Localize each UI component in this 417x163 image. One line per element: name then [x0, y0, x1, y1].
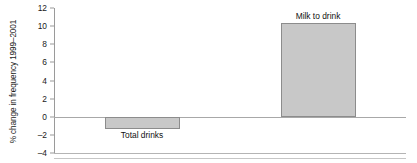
y-axis-tick-label: 6	[42, 57, 47, 67]
y-axis-tick-mark	[50, 153, 54, 154]
y-axis-tick-mark	[50, 26, 54, 27]
y-axis-tick-mark	[50, 134, 54, 135]
chart-bottom-frame	[54, 158, 406, 159]
axis-bottom-rule	[54, 153, 406, 154]
y-axis-tick-mark	[50, 98, 54, 99]
bar	[105, 117, 180, 130]
y-axis-tick-label: –4	[38, 148, 47, 158]
bar-chart: % change in frequency 1999–2001 12108642…	[0, 0, 417, 163]
y-axis-tick-mark	[50, 116, 54, 117]
y-axis-tick-mark	[50, 44, 54, 45]
y-axis-tick-mark	[50, 62, 54, 63]
y-axis-tick-label: –2	[38, 130, 47, 140]
y-axis-tick-mark	[50, 80, 54, 81]
y-axis-tick-mark	[50, 8, 54, 9]
y-axis-title: % change in frequency 1999–2001	[0, 0, 26, 163]
plot-area: Total drinksMilk to drink	[54, 8, 406, 153]
y-axis-tick-label: 2	[42, 94, 47, 104]
y-axis-tick-label: 12	[38, 3, 47, 13]
bar-category-label: Milk to drink	[258, 11, 378, 21]
y-axis-line	[54, 8, 55, 153]
y-axis-tick-label: 10	[38, 21, 47, 31]
y-axis-tick-label: 0	[42, 112, 47, 122]
bar	[281, 23, 356, 116]
y-axis-tick-labels: 121086420–2–4	[26, 0, 50, 163]
bar-category-label: Total drinks	[82, 130, 202, 140]
y-axis-tick-label: 4	[42, 76, 47, 86]
y-axis-tick-label: 8	[42, 39, 47, 49]
